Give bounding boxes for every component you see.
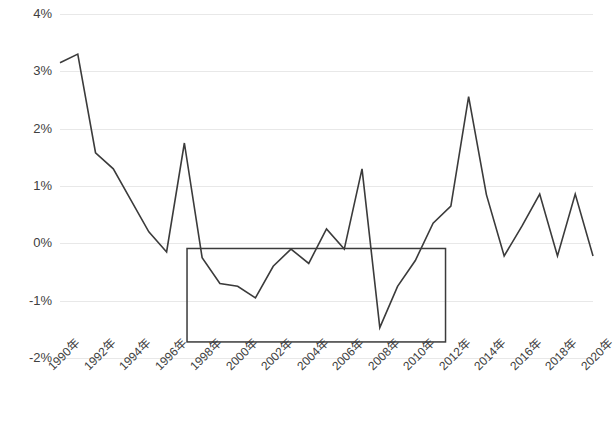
plot-area (60, 14, 593, 358)
gridline-neg1pct (60, 301, 593, 302)
gridline-4pct (60, 14, 593, 15)
y-tick-label: -1% (10, 294, 52, 307)
y-tick-label: 3% (10, 64, 52, 77)
y-tick-label: 4% (10, 7, 52, 20)
x-axis: 1990年1992年1994年1996年1998年2000年2002年2004年… (0, 358, 615, 429)
gridline-0pct (60, 243, 593, 244)
gridline-2pct (60, 129, 593, 130)
y-tick-label: 0% (10, 236, 52, 249)
gridline-3pct (60, 71, 593, 72)
y-tick-label: 1% (10, 179, 52, 192)
y-tick-label: 2% (10, 122, 52, 135)
gridline-1pct (60, 186, 593, 187)
line-chart: 4%3%2%1%0%-1%-2% 1990年1992年1994年1996年199… (0, 0, 615, 429)
